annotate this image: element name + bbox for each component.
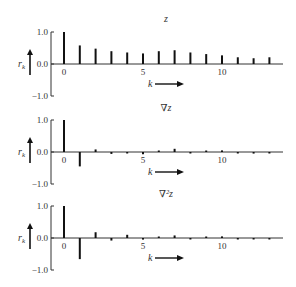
- arrowhead-icon: [177, 255, 184, 261]
- autocorrelation-bar: [237, 238, 239, 240]
- panel-title: ∇z: [161, 102, 172, 113]
- y-axis-label: rk: [18, 146, 26, 159]
- autocorrelation-bar: [221, 150, 223, 152]
- autocorrelation-bar: [110, 238, 112, 241]
- y-tick-label: −1.0: [32, 265, 49, 275]
- y-tick-label: 0.0: [37, 59, 49, 69]
- autocorrelation-bar: [110, 51, 112, 64]
- autocorrelation-bar: [79, 152, 81, 166]
- autocorrelation-bar: [237, 152, 239, 154]
- autocorrelation-bar: [158, 51, 160, 64]
- autocorrelation-bar: [268, 57, 270, 64]
- panel-title: z: [163, 13, 168, 24]
- autocorrelation-bar: [221, 55, 223, 64]
- autocorrelation-bar: [158, 151, 160, 153]
- y-tick-label: −1.0: [32, 179, 49, 189]
- y-tick-label: 0.0: [37, 147, 49, 157]
- autocorrelation-bar: [189, 152, 191, 154]
- autocorrelation-bar: [142, 152, 144, 154]
- y-tick-label: 0.0: [37, 233, 49, 243]
- autocorrelation-bar: [126, 235, 128, 238]
- autocorrelation-bar: [79, 238, 81, 259]
- autocorrelation-bar: [158, 237, 160, 239]
- autocorrelation-bar: [174, 235, 176, 238]
- arrowhead-icon: [177, 81, 184, 87]
- autocorrelation-bar: [126, 52, 128, 64]
- arrowhead-icon: [27, 137, 33, 143]
- autocorrelation-bar: [95, 232, 97, 238]
- correlogram-panel-1: 1.00.0−1.00510rkkz: [18, 13, 283, 101]
- panel-title: ∇²z: [159, 188, 173, 199]
- autocorrelation-bar: [205, 237, 207, 239]
- autocorrelation-bar: [174, 50, 176, 64]
- autocorrelation-bar: [63, 120, 65, 152]
- x-tick-label: 10: [218, 67, 228, 77]
- x-tick-label: 5: [141, 67, 146, 77]
- autocorrelation-bar: [95, 149, 97, 152]
- arrowhead-icon: [27, 49, 33, 55]
- y-axis-label: rk: [18, 58, 26, 71]
- autocorrelation-bar: [268, 152, 270, 154]
- autocorrelation-figure: 1.00.0−1.00510rkkz1.00.0−1.00510rkk∇z1.0…: [0, 0, 296, 287]
- autocorrelation-bar: [253, 58, 255, 64]
- autocorrelation-bar: [63, 206, 65, 238]
- arrowhead-icon: [177, 169, 184, 175]
- autocorrelation-bar: [189, 52, 191, 64]
- arrowhead-icon: [27, 223, 33, 229]
- autocorrelation-bar: [205, 151, 207, 153]
- autocorrelation-bar: [79, 45, 81, 64]
- y-tick-label: 1.0: [37, 115, 49, 125]
- x-tick-label: 5: [141, 241, 146, 251]
- autocorrelation-bar: [126, 152, 128, 154]
- autocorrelation-bar: [174, 149, 176, 152]
- x-tick-label: 10: [218, 241, 228, 251]
- x-tick-label: 10: [218, 155, 228, 165]
- x-axis-label: k: [148, 166, 153, 177]
- x-tick-label: 0: [62, 67, 67, 77]
- x-tick-label: 0: [62, 241, 67, 251]
- y-axis-label: rk: [18, 232, 26, 245]
- x-axis-label: k: [148, 252, 153, 263]
- x-tick-label: 5: [141, 155, 146, 165]
- autocorrelation-bar: [268, 238, 270, 240]
- autocorrelation-bar: [253, 238, 255, 240]
- autocorrelation-bar: [110, 152, 112, 154]
- autocorrelation-bar: [95, 49, 97, 64]
- y-tick-label: 1.0: [37, 27, 49, 37]
- autocorrelation-bar: [253, 152, 255, 154]
- y-tick-label: −1.0: [32, 91, 49, 101]
- autocorrelation-bar: [221, 236, 223, 238]
- correlogram-panel-3: 1.00.0−1.00510rkk∇²z: [18, 188, 283, 275]
- x-axis-label: k: [148, 78, 153, 89]
- x-tick-label: 0: [62, 155, 67, 165]
- autocorrelation-bar: [142, 238, 144, 240]
- autocorrelation-bar: [237, 57, 239, 64]
- autocorrelation-bar: [189, 238, 191, 240]
- autocorrelation-bar: [205, 54, 207, 64]
- y-tick-label: 1.0: [37, 201, 49, 211]
- autocorrelation-bar: [63, 32, 65, 64]
- autocorrelation-bar: [142, 53, 144, 64]
- correlogram-panel-2: 1.00.0−1.00510rkk∇z: [18, 102, 283, 189]
